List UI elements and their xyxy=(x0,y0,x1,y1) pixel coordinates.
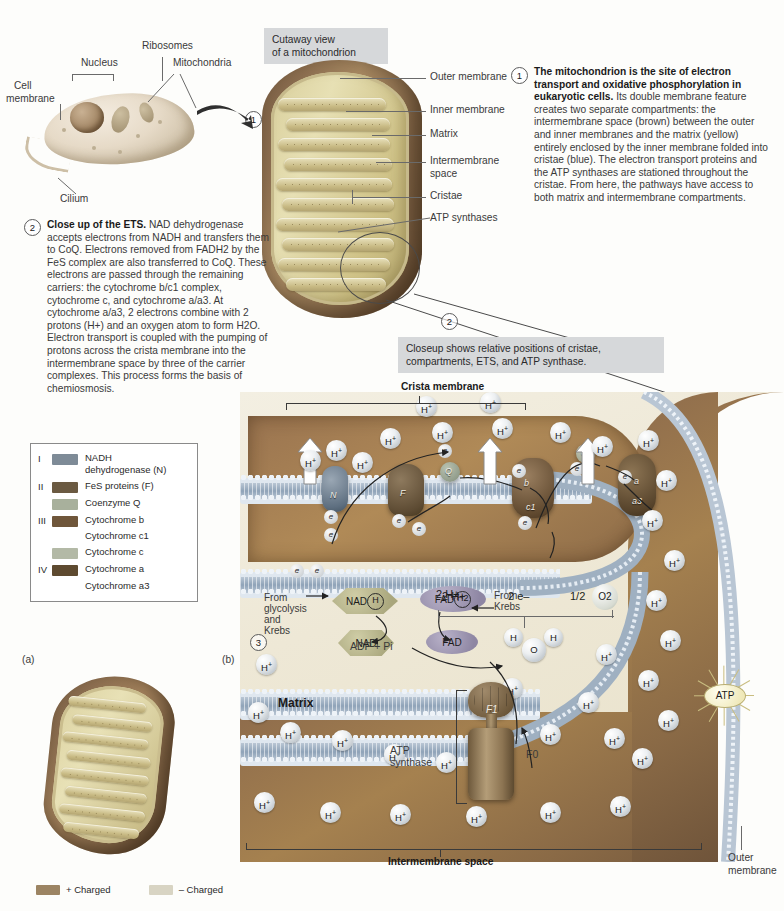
matrix-leader xyxy=(372,135,426,136)
proton: H+ xyxy=(632,748,653,769)
legend-row: I NADH dehydrogenase (N) xyxy=(38,452,190,476)
proton-pump-arrows xyxy=(296,436,626,488)
proton: H+ xyxy=(664,550,685,571)
proton: H+ xyxy=(578,692,599,713)
intermembrane-bracket-stem xyxy=(440,849,441,857)
legend-swatch-nadh xyxy=(52,454,78,465)
atp-synthase-label: ATP synthase xyxy=(390,744,432,768)
proton: H+ xyxy=(492,418,513,439)
outer-membrane-leader xyxy=(340,78,426,79)
legend-label: Coenzyme Q xyxy=(85,497,140,509)
legend-label: Cytochrome b Cytochrome c1 xyxy=(85,514,149,543)
legend-label: Cytochrome c xyxy=(85,546,144,558)
proton: H+ xyxy=(326,440,347,461)
callout-1-rest: Its double membrane feature creates two … xyxy=(534,91,768,203)
nucleus-label: Nucleus xyxy=(81,57,118,68)
legend-roman: I xyxy=(38,452,52,464)
proton: H+ xyxy=(352,452,373,473)
nucleus-leader xyxy=(72,74,114,75)
positive-charge-label: + Charged xyxy=(66,884,111,895)
legend-label: FeS proteins (F) xyxy=(85,480,154,492)
proton: H+ xyxy=(642,510,663,531)
crista-membrane-bracket-left xyxy=(286,403,287,410)
intermembrane-label-line1: Intermembrane xyxy=(430,155,499,166)
water-molecule: H H O xyxy=(504,628,574,658)
water-bracket-right xyxy=(612,610,613,618)
ribosome-dot xyxy=(62,128,66,132)
callout-2-text: Close up of the ETS. NAD dehydrogenase a… xyxy=(47,219,275,395)
proton: H+ xyxy=(466,806,487,827)
crista xyxy=(282,198,394,211)
legend-label-line2: dehydrogenase (N) xyxy=(85,464,166,476)
proton: H+ xyxy=(332,730,353,751)
charge-legend: + Charged – Charged xyxy=(36,884,223,895)
proton: H+ xyxy=(638,670,659,691)
crista-membrane-heading: Crista membrane xyxy=(401,381,484,392)
intermembrane-bracket-left xyxy=(246,843,247,850)
proton: H+ xyxy=(540,802,561,823)
legend-label-line1: Cytochrome b xyxy=(85,514,149,526)
legend-roman: III xyxy=(38,514,52,526)
outer-membrane-label: Outer membrane xyxy=(430,71,507,82)
intermembrane-leader xyxy=(376,162,426,163)
crista xyxy=(276,178,392,191)
cell-membrane-label-line2: membrane xyxy=(6,93,55,104)
legend-row: III Cytochrome b Cytochrome c1 xyxy=(38,514,190,543)
nucleus-shape xyxy=(70,102,104,133)
proton: H+ xyxy=(610,796,631,817)
ribosome-dot xyxy=(92,146,96,150)
water-formation-group: 2 H+ 2 e– 1/2 O2 xyxy=(476,584,676,620)
inner-membrane-label: Inner membrane xyxy=(430,104,505,115)
legend-label-line1: NADH xyxy=(85,452,166,464)
water-bracket xyxy=(438,616,614,617)
two-electrons-label: 2 e– xyxy=(508,590,529,602)
nucleus-leader-right xyxy=(113,74,114,81)
panel-b-label: (b) xyxy=(222,654,234,665)
legend-label: Cytochrome a Cytochrome a3 xyxy=(85,563,149,592)
legend-row: Cytochrome c xyxy=(38,546,190,559)
intermembrane-bracket xyxy=(246,849,702,850)
cell-membrane-label-line1: Cell xyxy=(14,80,32,91)
water-o: O xyxy=(522,638,546,662)
outer-membrane-heading-leader xyxy=(741,826,742,850)
legend-label-line2: Cytochrome c1 xyxy=(85,530,149,542)
legend-swatch-cytc xyxy=(52,548,78,559)
ribosome-dot xyxy=(158,120,162,124)
proton: H+ xyxy=(592,436,613,457)
atp-synthases-label: ATP synthases xyxy=(430,212,498,223)
water-h-right: H xyxy=(544,628,563,647)
oxygen-molecule: O2 xyxy=(592,584,618,610)
proton: H+ xyxy=(280,722,301,743)
closeup-caption-line2: compartments, ETS, and ATP synthase. xyxy=(406,355,656,368)
legend-swatch-coq xyxy=(52,499,78,510)
half-fraction-label: 1/2 xyxy=(570,590,585,602)
proton: H+ xyxy=(550,422,571,443)
proton: H+ xyxy=(248,702,269,723)
closeup-panel: N F Q b c1 c a a3 e e e e e e e e e e e … xyxy=(240,392,784,862)
inner-membrane-leader xyxy=(346,111,426,112)
legend-label-line2: Cytochrome a3 xyxy=(85,580,149,592)
ets-legend: I NADH dehydrogenase (N) II FeS proteins… xyxy=(30,443,198,602)
membrane-bead-row xyxy=(240,734,480,741)
callout-2-marker: 2 xyxy=(24,219,41,236)
atp-label: ATP xyxy=(704,684,746,708)
crista xyxy=(278,98,386,111)
proton: H+ xyxy=(254,792,275,813)
crista xyxy=(278,138,390,151)
ribosome-dot xyxy=(136,134,140,138)
callout-2b-marker: 2 xyxy=(441,313,458,330)
cutaway-caption-line1: Cutaway view xyxy=(272,33,380,46)
mitochondrion-panel-a xyxy=(39,670,179,860)
legend-roman: IV xyxy=(38,563,52,575)
ribosomes-label: Ribosomes xyxy=(142,40,193,51)
adp-to-atp-arrow xyxy=(410,642,510,690)
intermembrane-space-heading: Intermembrane space xyxy=(388,856,493,867)
atp-synthase-bracket xyxy=(456,690,467,804)
intermembrane-bracket-right xyxy=(701,843,702,850)
cilium-label: Cilium xyxy=(60,193,88,204)
proton: H+ xyxy=(604,728,625,749)
legend-swatch-cyta xyxy=(52,565,78,576)
outer-membrane-heading-line1: Outer xyxy=(728,852,753,863)
proton: H+ xyxy=(390,804,411,825)
proton: H+ xyxy=(380,428,401,449)
